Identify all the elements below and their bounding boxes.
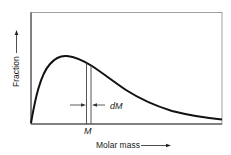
dm-left-arrow bbox=[70, 103, 86, 107]
x-axis-arrow-icon bbox=[141, 144, 171, 148]
y-axis-label: Fraction bbox=[11, 56, 21, 87]
dm-label: dM bbox=[110, 101, 123, 111]
dm-right-arrow bbox=[92, 103, 105, 107]
molar-mass-distribution-chart: dM M Molar mass Fraction bbox=[0, 0, 231, 155]
y-axis-arrow-icon bbox=[15, 30, 19, 53]
m-label: M bbox=[84, 126, 92, 136]
x-axis-label: Molar mass bbox=[96, 140, 140, 150]
distribution-curve bbox=[31, 56, 222, 123]
plot-frame bbox=[31, 13, 222, 125]
